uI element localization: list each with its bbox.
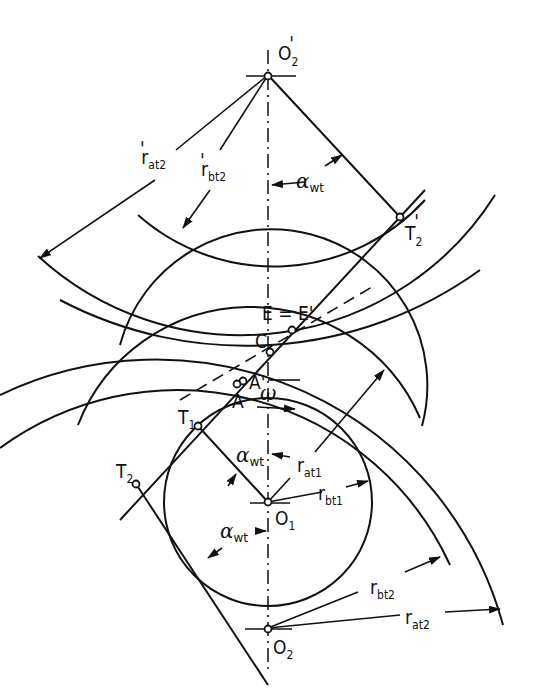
label-r-bt2-prime: rbt2' xyxy=(200,149,226,184)
point-o2 xyxy=(265,626,272,633)
arrow-r-bt2 xyxy=(405,557,440,572)
arrow-r-at1 xyxy=(315,370,384,452)
arrow-r-bt1 xyxy=(346,481,368,487)
label-t2: T2 xyxy=(115,460,133,486)
radius-o2p-t2p xyxy=(268,75,400,217)
leader-r-bt2-prime xyxy=(220,75,268,150)
label-a: A xyxy=(232,390,244,412)
label-o2: O2 xyxy=(273,636,293,662)
label-e-equals-e-prime: E = E' xyxy=(262,302,313,324)
point-t2 xyxy=(133,481,140,488)
label-alpha-wt-mid: αwt xyxy=(236,443,264,469)
point-o1 xyxy=(265,499,272,506)
arrow-alpha-top-right xyxy=(325,155,342,166)
radius-o2-t2 xyxy=(136,484,268,685)
label-c: C xyxy=(255,330,267,352)
label-r-bt2: rbt2 xyxy=(370,576,395,602)
arrow-alpha-mid-right xyxy=(272,454,290,457)
point-o2-prime xyxy=(265,73,272,80)
label-o1: O1 xyxy=(275,507,295,533)
arrow-r-at2 xyxy=(445,609,500,612)
point-a xyxy=(234,381,241,388)
label-r-at2: rat2 xyxy=(405,606,430,632)
label-alpha-wt-top: αwt xyxy=(296,169,324,195)
label-t2-prime: T2' xyxy=(404,210,422,249)
point-c xyxy=(267,349,274,356)
leader-r-bt2 xyxy=(268,592,358,628)
label-r-bt1: rbt1 xyxy=(318,482,343,508)
diagram-svg: O2' rat2' rbt2' αwt T2' E = E' C A' A ω … xyxy=(0,0,534,689)
omega-arrow xyxy=(257,407,295,409)
arrow-r-bt2-prime xyxy=(183,190,210,228)
gear-mesh-diagram: O2' rat2' rbt2' αwt T2' E = E' C A' A ω … xyxy=(0,0,534,689)
leader-r-at2 xyxy=(268,615,400,628)
label-r-at2-prime: rat2' xyxy=(140,137,166,172)
label-o2-prime: O2' xyxy=(278,32,298,69)
label-r-at1: rat1 xyxy=(297,454,322,480)
pitch-circle-gear1 xyxy=(78,307,420,425)
label-t1: T1 xyxy=(177,406,195,432)
point-t1 xyxy=(195,423,202,430)
arrow-alpha-mid-left xyxy=(228,474,236,486)
arrow-r-at2-prime xyxy=(40,180,155,258)
point-t2-prime xyxy=(397,214,404,221)
label-omega: ω xyxy=(260,381,276,405)
arrow-alpha-bottom-left xyxy=(208,548,222,558)
point-e xyxy=(289,327,296,334)
leader-r-at2-prime xyxy=(176,75,268,150)
label-alpha-wt-bottom: αwt xyxy=(220,519,248,545)
